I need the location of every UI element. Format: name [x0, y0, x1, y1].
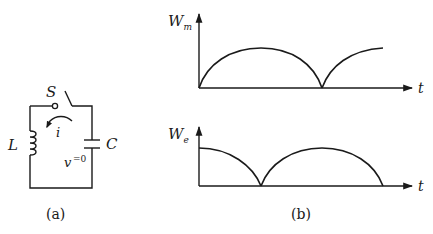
y-axis-label: We [168, 125, 189, 145]
y-axis-label: Wm [168, 12, 192, 32]
inductor-label: L [7, 136, 18, 154]
inductor-icon [30, 131, 36, 155]
plot-electric-energy: We t [168, 125, 424, 194]
capacitor-icon [84, 140, 100, 148]
wm-curve-arch-1 [199, 48, 322, 88]
we-curve-arch-2 [261, 148, 383, 186]
wm-curve-arch-2 [322, 48, 383, 88]
current-label: i [56, 125, 60, 140]
x-axis-label: t [418, 80, 424, 96]
lc-circuit: S L C i v =0 (a) [7, 83, 118, 222]
voltage-superscript: =0 [73, 154, 87, 164]
wire-right-top [72, 106, 92, 140]
figure: S L C i v =0 (a) Wm t We t (b) [0, 0, 433, 234]
caption-a: (a) [46, 206, 65, 222]
voltage-label: v [64, 155, 72, 170]
caption-b: (b) [291, 206, 311, 222]
switch-label: S [46, 83, 56, 101]
capacitor-label: C [106, 135, 118, 153]
we-curve-arch-1 [199, 148, 261, 186]
plot-magnetic-energy: Wm t [168, 12, 424, 96]
x-axis-label: t [418, 178, 424, 194]
